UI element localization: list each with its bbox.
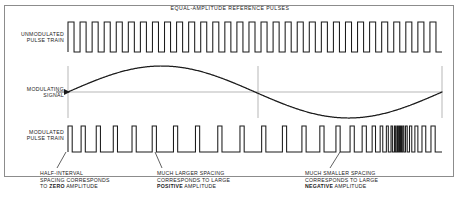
caption-zero-keyword: ZERO xyxy=(49,183,64,189)
caption-positive-line3-suffix: AMPLITUDE xyxy=(183,183,216,189)
unmodulated-pulse-train xyxy=(68,22,442,52)
leader-line-negative xyxy=(330,152,340,168)
caption-negative-line3-suffix: AMPLITUDE xyxy=(333,183,366,189)
caption-zero-line1: HALF-INTERVAL xyxy=(40,170,83,176)
caption-negative-amplitude: MUCH SMALLER SPACING CORRESPONDS TO LARG… xyxy=(305,170,378,190)
caption-negative-line1: MUCH SMALLER SPACING xyxy=(305,170,376,176)
leader-line-positive xyxy=(155,152,162,168)
modulated-pulse-train xyxy=(68,126,442,152)
caption-zero-line3-prefix: TO xyxy=(40,183,49,189)
caption-negative-line2: CORRESPONDS TO LARGE xyxy=(305,177,378,183)
diagram-canvas: EQUAL-AMPLITUDE REFERENCE PULSES UNMODUL… xyxy=(0,0,460,204)
caption-positive-line1: MUCH LARGER SPACING xyxy=(157,170,225,176)
caption-zero-line3-suffix: AMPLITUDE xyxy=(65,183,98,189)
leader-line-zero xyxy=(57,152,66,168)
caption-zero-line2: SPACING CORRESPONDS xyxy=(40,177,110,183)
caption-positive-line2: CORRESPONDS TO LARGE xyxy=(157,177,230,183)
caption-positive-amplitude: MUCH LARGER SPACING CORRESPONDS TO LARGE… xyxy=(157,170,230,190)
caption-negative-keyword: NEGATIVE xyxy=(305,183,333,189)
caption-leader-lines xyxy=(57,152,340,168)
caption-zero-amplitude: HALF-INTERVAL SPACING CORRESPONDS TO ZER… xyxy=(40,170,110,190)
caption-positive-keyword: POSITIVE xyxy=(157,183,183,189)
